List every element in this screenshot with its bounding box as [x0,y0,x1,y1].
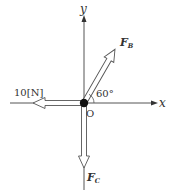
force-label-10N: 10[N] [14,87,43,98]
force-label-FB-sub: B [127,42,134,50]
x-axis-label: x [159,96,166,110]
origin-dot [80,99,88,107]
angle-label: 60° [96,88,114,99]
origin-label: O [86,108,94,119]
y-axis-arrowhead [82,15,87,22]
y-axis-label: y [79,2,87,16]
force-label-FC-sub: C [95,177,101,185]
x-axis-arrowhead [151,101,158,106]
force-arrow-10N [33,98,84,109]
force-label-FC: FC [86,171,101,185]
force-diagram: y x O 60° 10[N] FB FC [0,0,169,191]
force-label-FB: FB [119,36,134,50]
